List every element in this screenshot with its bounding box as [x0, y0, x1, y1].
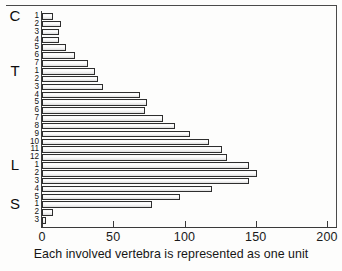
- x-tick-200: [327, 221, 328, 227]
- figure-right-rule: [336, 5, 337, 227]
- bar-S2: [42, 209, 53, 216]
- bar-T4: [42, 92, 140, 99]
- x-tick-label-150: 150: [245, 230, 266, 244]
- bar-C3: [42, 29, 59, 36]
- bar-fill: [42, 76, 98, 83]
- bar-fill: [42, 170, 257, 177]
- bar-T3: [42, 84, 103, 91]
- bar-fill: [42, 99, 147, 106]
- bar-T5: [42, 99, 147, 106]
- bar-fill: [42, 92, 140, 99]
- x-tick-label-0: 0: [38, 230, 45, 244]
- bar-fill: [42, 186, 212, 193]
- group-letter-C: C: [7, 8, 23, 23]
- group-letter-L: L: [7, 157, 23, 172]
- bar-C4: [42, 37, 59, 44]
- bar-T10: [42, 139, 209, 146]
- vertebra-involvement-chart: 050100150200 123456712345678910111212345…: [0, 0, 342, 271]
- bar-fill: [42, 115, 163, 122]
- bar-fill: [42, 209, 53, 216]
- bar-fill: [42, 13, 53, 20]
- bar-T6: [42, 107, 145, 114]
- bar-C7: [42, 60, 88, 67]
- bar-C1: [42, 13, 53, 20]
- bar-S1: [42, 201, 152, 208]
- bar-L1: [42, 162, 249, 169]
- bar-T7: [42, 115, 163, 122]
- bar-fill: [42, 107, 145, 114]
- x-tick-150: [256, 221, 257, 227]
- bar-fill: [42, 44, 66, 51]
- x-tick-label-200: 200: [316, 230, 337, 244]
- x-tick-label-50: 50: [106, 230, 120, 244]
- bar-L2: [42, 170, 257, 177]
- bar-fill: [42, 60, 88, 67]
- bar-C6: [42, 52, 75, 59]
- bar-T12: [42, 154, 227, 161]
- x-tick-100: [185, 221, 186, 227]
- bar-fill: [42, 201, 152, 208]
- bar-C2: [42, 21, 61, 28]
- bar-fill: [42, 194, 180, 201]
- bar-T1: [42, 68, 95, 75]
- bar-fill: [42, 84, 103, 91]
- bar-fill: [42, 68, 95, 75]
- bar-fill: [42, 29, 59, 36]
- bar-fill: [42, 162, 249, 169]
- bar-fill: [42, 146, 222, 153]
- bar-T8: [42, 123, 175, 130]
- bar-S3: [42, 217, 46, 224]
- x-tick-label-100: 100: [174, 230, 195, 244]
- bar-fill: [42, 178, 249, 185]
- bar-T11: [42, 146, 222, 153]
- x-tick-50: [113, 221, 114, 227]
- bar-L4: [42, 186, 212, 193]
- group-letter-S: S: [7, 196, 23, 211]
- bar-fill: [42, 217, 46, 224]
- figure-top-rule: [6, 5, 336, 6]
- bar-L5: [42, 194, 180, 201]
- bar-C5: [42, 44, 66, 51]
- bar-L3: [42, 178, 249, 185]
- bar-fill: [42, 37, 59, 44]
- bar-fill: [42, 21, 61, 28]
- bar-fill: [42, 131, 190, 138]
- bar-T9: [42, 131, 190, 138]
- bar-fill: [42, 123, 175, 130]
- chart-caption: Each involved vertebra is represented as…: [0, 247, 342, 261]
- bar-fill: [42, 52, 75, 59]
- bar-T2: [42, 76, 98, 83]
- bar-fill: [42, 139, 209, 146]
- row-label-S3: 3: [24, 216, 39, 224]
- group-letter-T: T: [7, 63, 23, 78]
- bar-fill: [42, 154, 227, 161]
- x-axis-line: [41, 227, 337, 228]
